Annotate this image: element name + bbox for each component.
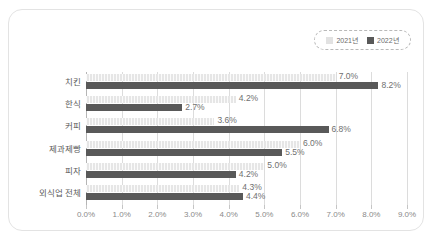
tick-8.0% — [371, 205, 372, 209]
bar-group: 5.0%4.2% — [86, 161, 407, 183]
legend-item-2021[interactable]: 2021년 — [326, 37, 358, 44]
tick-4.0% — [229, 205, 230, 209]
bar-2022년[interactable] — [86, 193, 243, 200]
bar-2022년[interactable] — [86, 171, 236, 178]
y-axis-category-label: 치킨 — [65, 78, 81, 87]
bar-2021년[interactable] — [86, 118, 214, 125]
tick-9.0% — [407, 205, 408, 209]
tick-5.0% — [264, 205, 265, 209]
bar-2021년[interactable] — [86, 185, 239, 192]
x-axis-labels: 0.0%1.0%2.0%3.0%4.0%5.0%6.0%7.0%8.0%9.0% — [9, 210, 434, 224]
legend-item-2022[interactable]: 2022년 — [367, 37, 399, 44]
x-axis-tick-label: 2.0% — [148, 210, 166, 219]
chart-card: 2021년 2022년 치킨한식커피제과제빵피자외식업 전체 7.0%8.2%4… — [8, 9, 424, 231]
bar-group: 7.0%8.2% — [86, 72, 407, 94]
y-axis-category-label: 한식 — [65, 100, 81, 109]
x-axis-tick-label: 3.0% — [184, 210, 202, 219]
chart-legend: 2021년 2022년 — [314, 30, 411, 50]
tick-0.0% — [86, 205, 87, 209]
bar-value-label: 4.2% — [239, 94, 258, 103]
legend-swatch-2021-icon — [326, 37, 333, 44]
bar-value-label: 5.5% — [285, 148, 304, 157]
x-axis-tick-label: 8.0% — [362, 210, 380, 219]
y-axis-category-label: 피자 — [65, 167, 81, 176]
bar-group: 3.6%6.8% — [86, 116, 407, 138]
y-axis-category-label: 외식업 전체 — [39, 189, 81, 198]
bar-value-label: 4.4% — [246, 192, 265, 201]
bar-group: 6.0%5.5% — [86, 139, 407, 161]
bar-value-label: 6.0% — [303, 139, 322, 148]
x-axis-tick-label: 0.0% — [77, 210, 95, 219]
bar-value-label: 7.0% — [339, 72, 358, 81]
bar-group: 4.2%2.7% — [86, 94, 407, 116]
gridline-9.0% — [407, 72, 408, 205]
bar-value-label: 5.0% — [267, 161, 286, 170]
bar-2022년[interactable] — [86, 126, 329, 133]
bar-value-label: 2.7% — [185, 103, 204, 112]
legend-label-2021: 2021년 — [336, 37, 358, 44]
bar-group: 4.3%4.4% — [86, 183, 407, 205]
tick-1.0% — [122, 205, 123, 209]
tick-6.0% — [300, 205, 301, 209]
tick-2.0% — [157, 205, 158, 209]
y-axis-category-label: 커피 — [65, 122, 81, 131]
bar-2022년[interactable] — [86, 104, 182, 111]
bar-2021년[interactable] — [86, 74, 336, 81]
x-axis-tick-label: 1.0% — [113, 210, 131, 219]
bar-2021년[interactable] — [86, 141, 300, 148]
bar-2022년[interactable] — [86, 82, 378, 89]
tick-3.0% — [193, 205, 194, 209]
bar-2022년[interactable] — [86, 149, 282, 156]
tick-7.0% — [336, 205, 337, 209]
bar-value-label: 3.6% — [217, 116, 236, 125]
y-axis-category-label: 제과제빵 — [49, 145, 81, 154]
bar-value-label: 8.2% — [381, 81, 400, 90]
plot-area: 7.0%8.2%4.2%2.7%3.6%6.8%6.0%5.5%5.0%4.2%… — [86, 72, 407, 205]
legend-label-2022: 2022년 — [377, 37, 399, 44]
bar-value-label: 4.2% — [239, 170, 258, 179]
legend-swatch-2022-icon — [367, 37, 374, 44]
x-axis-tick-label: 6.0% — [291, 210, 309, 219]
bar-2021년[interactable] — [86, 163, 264, 170]
x-axis-tick-label: 4.0% — [220, 210, 238, 219]
x-axis-tick-label: 5.0% — [255, 210, 273, 219]
bar-2021년[interactable] — [86, 96, 236, 103]
bar-value-label: 6.8% — [332, 125, 351, 134]
y-axis-labels: 치킨한식커피제과제빵피자외식업 전체 — [9, 72, 81, 205]
x-axis-tick-label: 7.0% — [327, 210, 345, 219]
x-axis-tick-label: 9.0% — [398, 210, 416, 219]
